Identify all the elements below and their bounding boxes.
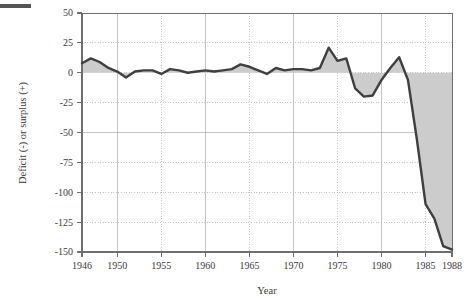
x-tick-label: 1980 xyxy=(372,260,392,271)
y-tick-label: 25 xyxy=(63,37,73,48)
y-tick-label: -50 xyxy=(60,127,73,138)
x-tick-label: 1975 xyxy=(327,260,347,271)
x-tick-label: 1985 xyxy=(416,260,436,271)
y-axis-title: Deficit (-) or surplus (+) xyxy=(17,81,29,184)
y-tick-label: 50 xyxy=(63,7,73,18)
y-tick-label: 0 xyxy=(68,67,73,78)
section-rule xyxy=(0,4,31,8)
x-tick-label: 1946 xyxy=(72,260,92,271)
y-tick-label: -150 xyxy=(55,246,73,257)
y-tick-labels: 50250-25-50-75-100-125-150 xyxy=(55,7,73,257)
data-line xyxy=(82,48,452,250)
x-tick-label: 1960 xyxy=(195,260,215,271)
deficit-surplus-area-chart: 50250-25-50-75-100-125-150 1946195019551… xyxy=(0,0,472,308)
chart-figure: 50250-25-50-75-100-125-150 1946195019551… xyxy=(0,0,472,308)
x-tick-label: 1950 xyxy=(107,260,127,271)
axis-ticks xyxy=(77,13,452,257)
x-tick-labels: 1946195019551960196519701975198019851988 xyxy=(72,260,462,271)
x-tick-label: 1988 xyxy=(442,260,462,271)
x-axis-title: Year xyxy=(257,285,277,296)
area-fill xyxy=(82,48,452,250)
x-tick-label: 1970 xyxy=(283,260,303,271)
grid-lines xyxy=(82,13,452,252)
y-tick-label: -125 xyxy=(55,217,73,228)
x-tick-label: 1955 xyxy=(151,260,171,271)
y-tick-label: -100 xyxy=(55,187,73,198)
y-tick-label: -25 xyxy=(60,97,73,108)
x-tick-label: 1965 xyxy=(239,260,259,271)
y-tick-label: -75 xyxy=(60,157,73,168)
